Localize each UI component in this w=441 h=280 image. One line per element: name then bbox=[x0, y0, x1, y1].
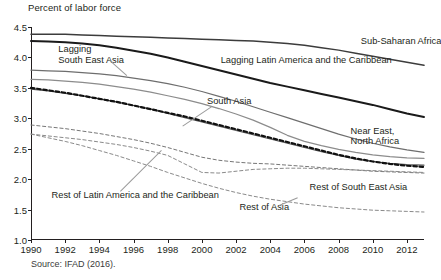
y-tick-label: 3.5 bbox=[14, 82, 27, 93]
plot-area: 1.01.52.02.53.03.54.04.5 199019921994199… bbox=[31, 27, 424, 240]
x-tick-mark bbox=[373, 240, 374, 243]
y-tick-label: 1.5 bbox=[14, 204, 27, 215]
x-tick-mark bbox=[99, 240, 100, 243]
y-tick-label: 2.5 bbox=[14, 143, 27, 154]
y-tick-label: 2.0 bbox=[14, 174, 27, 185]
x-tick-mark bbox=[65, 240, 66, 243]
series-label: Rest of South East Asia bbox=[310, 182, 408, 193]
x-tick-label: 2000 bbox=[191, 244, 212, 255]
x-tick-label: 2006 bbox=[294, 244, 315, 255]
series-label: Lagging Latin America and the Caribbean bbox=[221, 55, 392, 66]
x-tick-mark bbox=[407, 240, 408, 243]
x-tick-mark bbox=[236, 240, 237, 243]
x-tick-mark bbox=[339, 240, 340, 243]
y-tick-label: 4.5 bbox=[14, 22, 27, 33]
y-tick-label: 4.0 bbox=[14, 52, 27, 63]
y-axis-title: Percent of labor force bbox=[28, 2, 121, 13]
x-tick-label: 2012 bbox=[396, 244, 417, 255]
x-tick-label: 1994 bbox=[89, 244, 110, 255]
x-tick-label: 2004 bbox=[260, 244, 281, 255]
x-tick-label: 1992 bbox=[55, 244, 76, 255]
x-tick-mark bbox=[304, 240, 305, 243]
x-tick-mark bbox=[134, 240, 135, 243]
series-label: Rest of Latin America and the Caribbean bbox=[52, 190, 219, 201]
y-tick-label: 3.0 bbox=[14, 113, 27, 124]
x-tick-label: 2010 bbox=[362, 244, 383, 255]
x-tick-mark bbox=[168, 240, 169, 243]
source-note: Source: IFAD (2016). bbox=[31, 259, 116, 269]
x-tick-mark bbox=[270, 240, 271, 243]
x-tick-label: 2008 bbox=[328, 244, 349, 255]
series-label: South Asia bbox=[207, 96, 251, 107]
series-label: Sub-Saharan Africa bbox=[361, 36, 441, 47]
x-tick-label: 1996 bbox=[123, 244, 144, 255]
series-label: Near East, North Africa bbox=[351, 126, 400, 147]
x-tick-mark bbox=[202, 240, 203, 243]
series-label: Lagging South East Asia bbox=[58, 44, 124, 65]
x-tick-label: 2002 bbox=[225, 244, 246, 255]
x-tick-label: 1990 bbox=[20, 244, 41, 255]
x-tick-label: 1998 bbox=[157, 244, 178, 255]
x-tick-mark bbox=[31, 240, 32, 243]
